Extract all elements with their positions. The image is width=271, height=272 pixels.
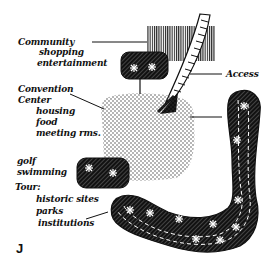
label-access: Access [226,69,259,79]
leader-convention [70,94,104,109]
recreation-blob [77,158,129,188]
label-entertainment: entertainment [37,58,107,68]
label-convention: Convention [18,84,73,94]
label-shopping: shopping [39,47,84,57]
label-meeting-rooms: meeting rms. [36,128,101,138]
label-institutions: institutions [38,218,94,228]
figure-label: J [16,244,23,254]
entertainment-blob [121,52,168,94]
label-center: Center [18,95,51,105]
label-housing: housing [36,106,75,116]
label-parks: parks [36,206,63,216]
label-food: food [36,117,57,127]
label-swimming: swimming [17,167,67,177]
label-community: Community [18,37,74,47]
label-tour: Tour: [15,182,40,192]
label-historic-sites: historic sites [36,194,99,204]
label-golf: golf [17,156,36,166]
